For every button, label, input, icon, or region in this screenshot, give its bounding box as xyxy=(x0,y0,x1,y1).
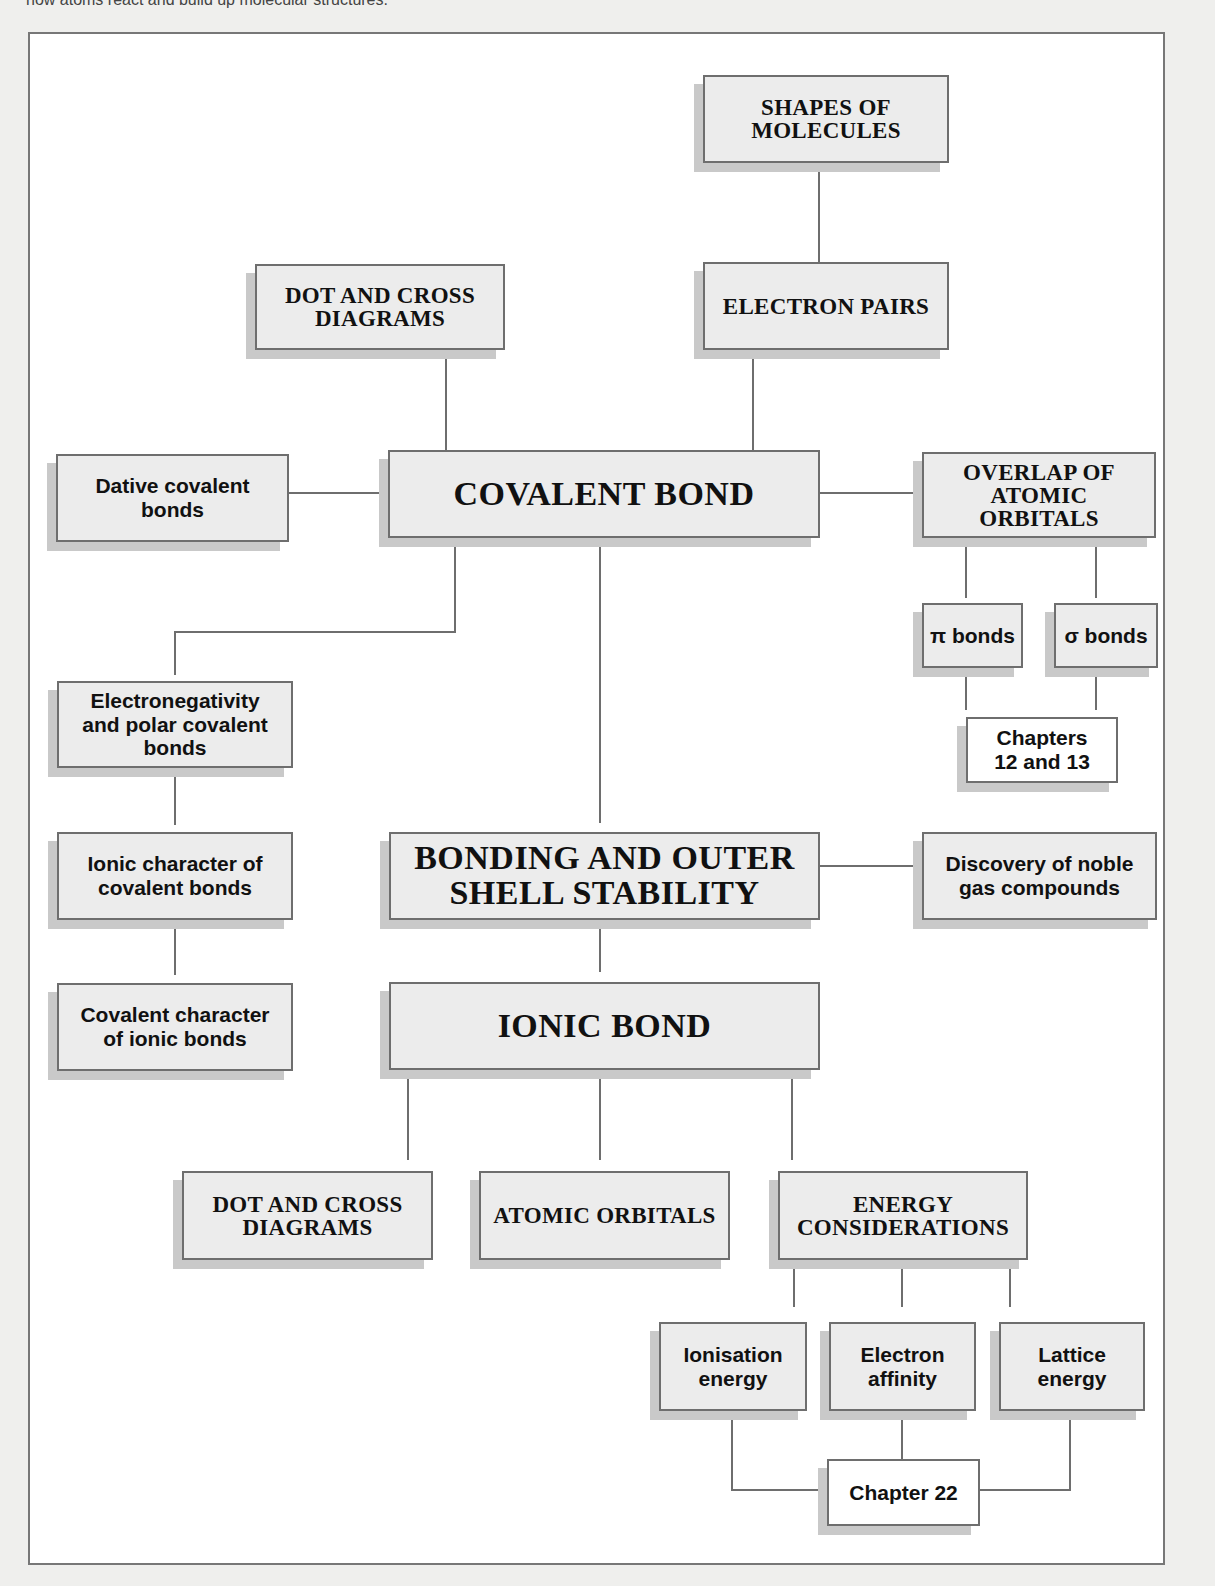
node-chapters-12-and-13[interactable]: Chapters 12 and 13 xyxy=(966,717,1118,783)
node-ionic-bond[interactable]: IONIC BOND xyxy=(389,982,820,1070)
node-dot-and-cross-covalent[interactable]: DOT AND CROSS DIAGRAMS xyxy=(255,264,505,350)
node-electron-pairs[interactable]: ELECTRON PAIRS xyxy=(703,262,949,350)
node-sigma-bonds[interactable]: σ bonds xyxy=(1054,603,1158,668)
node-ionisation-energy[interactable]: Ionisation energy xyxy=(659,1322,807,1411)
node-pi-bonds[interactable]: π bonds xyxy=(922,603,1023,668)
node-shapes-of-molecules[interactable]: SHAPES OF MOLECULES xyxy=(703,75,949,163)
node-covalent-character[interactable]: Covalent character of ionic bonds xyxy=(57,983,293,1071)
node-electron-affinity[interactable]: Electron affinity xyxy=(829,1322,976,1411)
node-lattice-energy[interactable]: Lattice energy xyxy=(999,1322,1145,1411)
node-energy-considerations[interactable]: ENERGY CONSIDERATIONS xyxy=(778,1171,1028,1260)
node-discovery-of-noble-gas-compounds[interactable]: Discovery of noble gas compounds xyxy=(922,832,1157,920)
node-bonding-and-outer-shell-stability[interactable]: BONDING AND OUTER SHELL STABILITY xyxy=(389,832,820,920)
node-chapter-22[interactable]: Chapter 22 xyxy=(827,1459,980,1526)
node-atomic-orbitals[interactable]: ATOMIC ORBITALS xyxy=(479,1171,730,1260)
node-covalent-bond[interactable]: COVALENT BOND xyxy=(388,450,820,538)
node-overlap-of-atomic-orbitals[interactable]: OVERLAP OF ATOMIC ORBITALS xyxy=(922,452,1156,538)
node-electronegativity[interactable]: Electronegativity and polar covalent bon… xyxy=(57,681,293,768)
node-dative-covalent-bonds[interactable]: Dative covalent bonds xyxy=(56,454,289,542)
node-dot-and-cross-ionic[interactable]: DOT AND CROSS DIAGRAMS xyxy=(182,1171,433,1260)
node-ionic-character[interactable]: Ionic character of covalent bonds xyxy=(57,832,293,920)
